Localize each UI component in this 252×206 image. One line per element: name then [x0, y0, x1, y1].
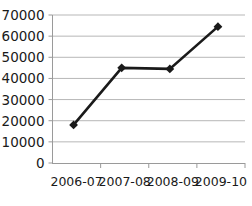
data-point-markers	[69, 22, 222, 129]
y-axis-tick-label: 70000	[2, 7, 45, 23]
y-axis-tick-label: 60000	[2, 28, 45, 44]
x-axis-tick-label: 2006-07	[50, 174, 102, 189]
data-series-line	[74, 27, 218, 125]
y-axis-tick-label: 20000	[2, 113, 45, 129]
x-axis-labels: 2006-072007-082008-092009-10	[50, 174, 247, 189]
chart-canvas: 010000200003000040000500006000070000 200…	[0, 0, 252, 206]
y-axis-tick-label: 10000	[2, 134, 45, 150]
x-axis-tick-label: 2008-09	[147, 174, 199, 189]
x-axis-tick-label: 2007-08	[99, 174, 151, 189]
y-axis-labels: 010000200003000040000500006000070000	[2, 7, 45, 171]
y-axis-ticks	[49, 15, 53, 163]
line-chart: 010000200003000040000500006000070000 200…	[0, 0, 252, 206]
y-axis-tick-label: 50000	[2, 49, 45, 65]
gridlines	[53, 15, 246, 142]
x-axis-tick-label: 2009-10	[195, 174, 247, 189]
y-axis-tick-label: 30000	[2, 92, 45, 108]
y-axis-tick-label: 40000	[2, 70, 45, 86]
y-axis-tick-label: 0	[36, 155, 45, 171]
